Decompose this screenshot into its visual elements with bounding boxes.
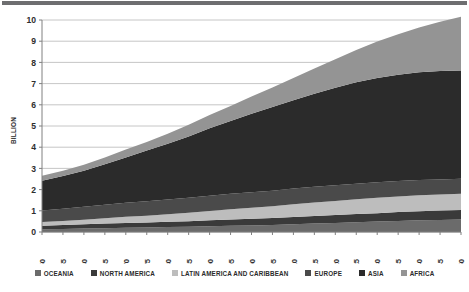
legend-item-latin-america-and-caribbean[interactable]: LATIN AMERICA AND CARIBBEAN: [172, 270, 288, 277]
legend-item-label: LATIN AMERICA AND CARIBBEAN: [181, 270, 288, 277]
legend-item-label: NORTH AMERICA: [100, 270, 155, 277]
legend-swatch-icon: [172, 270, 178, 276]
legend-item-label: ASIA: [368, 270, 384, 277]
legend-item-oceania[interactable]: OCEANIA: [35, 270, 74, 277]
y-axis-tick-label: 2: [31, 185, 36, 195]
y-axis-tick-label: 10: [26, 15, 36, 25]
y-axis-tick-label: 1: [31, 206, 36, 216]
y-axis-tick-label: 0: [31, 227, 36, 237]
legend-item-label: OCEANIA: [44, 270, 74, 277]
y-axis-tick-label: 9: [31, 36, 36, 46]
y-axis-tick-label: 4: [31, 142, 36, 152]
legend-swatch-icon: [305, 270, 311, 276]
x-axis-ticks-group: 1950195519601965197019751980198519901995…: [38, 232, 466, 264]
legend-item-label: AFRICA: [410, 270, 435, 277]
y-axis-tick-label: 7: [31, 79, 36, 89]
area-series-group: [42, 17, 461, 232]
legend-swatch-icon: [401, 270, 407, 276]
y-axis-title: BILLION: [10, 117, 17, 144]
legend-item-europe[interactable]: EUROPE: [305, 270, 342, 277]
legend-item-asia[interactable]: ASIA: [359, 270, 384, 277]
stacked-area-chart: 012345678910 195019551960196519701975198…: [0, 0, 469, 264]
legend-item-africa[interactable]: AFRICA: [401, 270, 435, 277]
chart-legend: OCEANIANORTH AMERICALATIN AMERICA AND CA…: [0, 264, 469, 282]
y-axis-ticks-group: 012345678910: [26, 15, 42, 237]
y-axis-label-group: BILLION: [10, 117, 17, 144]
chart-figure: 012345678910 195019551960196519701975198…: [0, 0, 469, 292]
legend-swatch-icon: [91, 270, 97, 276]
legend-item-north-america[interactable]: NORTH AMERICA: [91, 270, 155, 277]
legend-swatch-icon: [359, 270, 365, 276]
y-axis-tick-label: 6: [31, 100, 36, 110]
legend-item-label: EUROPE: [314, 270, 342, 277]
y-axis-tick-label: 3: [31, 164, 36, 174]
y-axis-tick-label: 5: [31, 121, 36, 131]
legend-swatch-icon: [35, 270, 41, 276]
y-axis-tick-label: 8: [31, 58, 36, 68]
